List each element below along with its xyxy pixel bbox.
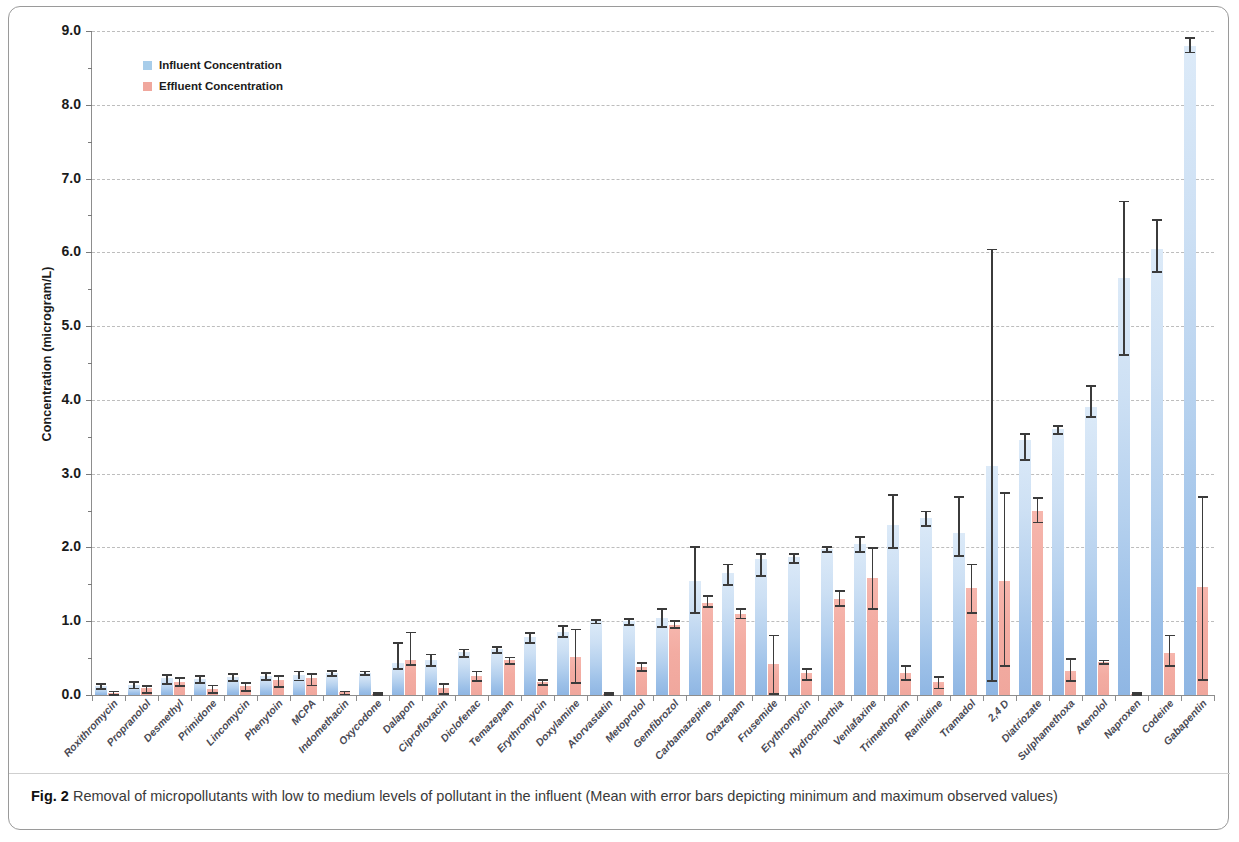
error-bar-cap-bottom bbox=[261, 679, 271, 681]
error-bar-cap-bottom bbox=[769, 693, 779, 695]
error-bar-cap-bottom bbox=[459, 656, 469, 658]
figure-caption-label: Fig. 2 bbox=[31, 788, 69, 804]
error-bar-line bbox=[971, 564, 973, 613]
error-bar-cap-bottom bbox=[637, 670, 647, 672]
error-bar-cap-top bbox=[129, 681, 139, 683]
bar-effluent bbox=[504, 660, 515, 695]
bar-group bbox=[422, 31, 455, 695]
error-bar-cap-top bbox=[1198, 496, 1208, 498]
error-bar-cap-bottom bbox=[571, 682, 581, 684]
error-bar-cap-top bbox=[591, 619, 601, 621]
error-bar-cap-top bbox=[525, 632, 535, 634]
error-bar-cap-top bbox=[274, 675, 284, 677]
error-bar-cap-bottom bbox=[109, 694, 119, 696]
error-bar-cap-top bbox=[538, 679, 548, 681]
error-bar-cap-bottom bbox=[208, 692, 218, 694]
bar-influent bbox=[722, 573, 733, 695]
error-bar-cap-bottom bbox=[703, 606, 713, 608]
bar-influent bbox=[623, 621, 634, 695]
bar-group bbox=[389, 31, 422, 695]
error-bar-cap-bottom bbox=[393, 668, 403, 670]
error-bar-cap-bottom bbox=[129, 688, 139, 690]
error-bar-cap-bottom bbox=[525, 642, 535, 644]
error-bar-cap-bottom bbox=[723, 584, 733, 586]
error-bar-cap-bottom bbox=[327, 675, 337, 677]
error-bar-cap-top bbox=[1185, 37, 1195, 39]
error-bar-cap-bottom bbox=[162, 683, 172, 685]
error-bar-cap-top bbox=[439, 683, 449, 685]
bar-group bbox=[752, 31, 785, 695]
error-bar-cap-bottom bbox=[1000, 665, 1010, 667]
y-axis-tick-label: 2.0 bbox=[39, 538, 81, 554]
error-bar-cap-bottom bbox=[558, 636, 568, 638]
bar-influent bbox=[1019, 440, 1030, 695]
error-bar-cap-bottom bbox=[604, 694, 614, 696]
error-bar-cap-top bbox=[505, 657, 515, 659]
y-axis-tick-label: 1.0 bbox=[39, 612, 81, 628]
error-bar-cap-top bbox=[769, 635, 779, 637]
error-bar-cap-top bbox=[736, 608, 746, 610]
error-bar-cap-top bbox=[109, 691, 119, 693]
error-bar-cap-bottom bbox=[954, 555, 964, 557]
error-bar-cap-bottom bbox=[1033, 522, 1043, 524]
error-bar-cap-bottom bbox=[274, 686, 284, 688]
caption-divider bbox=[9, 773, 1230, 774]
error-bar-cap-bottom bbox=[868, 608, 878, 610]
error-bar-line bbox=[410, 632, 412, 664]
error-bar-line bbox=[1024, 433, 1026, 459]
error-bar-cap-top bbox=[142, 685, 152, 687]
bar-group bbox=[521, 31, 554, 695]
error-bar-line bbox=[1189, 37, 1191, 52]
error-bar-cap-top bbox=[195, 675, 205, 677]
error-bar-cap-bottom bbox=[1099, 663, 1109, 665]
bar-influent bbox=[557, 632, 568, 695]
figure-frame: Concentration (microgram/L) 0.01.02.03.0… bbox=[8, 6, 1229, 830]
chart-plot-wrapper: Concentration (microgram/L) 0.01.02.03.0… bbox=[9, 7, 1230, 777]
error-bar-cap-top bbox=[228, 673, 238, 675]
error-bar-cap-bottom bbox=[492, 652, 502, 654]
error-bar-cap-top bbox=[393, 642, 403, 644]
bar-group bbox=[554, 31, 587, 695]
error-bar-cap-top bbox=[637, 662, 647, 664]
error-bar-cap-top bbox=[261, 672, 271, 674]
bar-influent bbox=[1052, 429, 1063, 695]
error-bar-cap-top bbox=[558, 625, 568, 627]
error-bar-line bbox=[760, 553, 762, 574]
y-axis-tick-labels: 0.01.02.03.04.05.06.07.08.09.0 bbox=[33, 7, 81, 777]
error-bar-cap-bottom bbox=[241, 690, 251, 692]
error-bar-line bbox=[892, 494, 894, 547]
error-bar-cap-bottom bbox=[657, 626, 667, 628]
error-bar-cap-bottom bbox=[406, 664, 416, 666]
error-bar-cap-top bbox=[1033, 497, 1043, 499]
error-bar-cap-bottom bbox=[670, 627, 680, 629]
bar-influent bbox=[1184, 46, 1195, 695]
x-axis-tick-label: 2,4 D bbox=[985, 697, 1011, 724]
error-bar-cap-top bbox=[901, 665, 911, 667]
error-bar-cap-top bbox=[855, 536, 865, 538]
error-bar-cap-bottom bbox=[1165, 665, 1175, 667]
error-bar-line bbox=[1169, 635, 1171, 666]
error-bar-cap-top bbox=[703, 595, 713, 597]
error-bar-cap-top bbox=[472, 671, 482, 673]
x-axis-tick-label: MCPA bbox=[289, 697, 318, 727]
bar-effluent bbox=[702, 603, 713, 695]
bar-group bbox=[983, 31, 1016, 695]
error-bar-line bbox=[575, 629, 577, 682]
bar-influent bbox=[854, 544, 865, 695]
bar-influent bbox=[788, 557, 799, 695]
plot-area bbox=[91, 31, 1214, 696]
error-bar-cap-top bbox=[208, 685, 218, 687]
error-bar-line bbox=[1004, 492, 1006, 665]
legend-label-influent: Influent Concentration bbox=[159, 59, 282, 71]
error-bar-cap-bottom bbox=[360, 674, 370, 676]
bar-group bbox=[1082, 31, 1115, 695]
error-bar-cap-top bbox=[802, 668, 812, 670]
y-axis-tick-label: 5.0 bbox=[39, 317, 81, 333]
bar-effluent bbox=[1098, 662, 1109, 695]
error-bar-cap-bottom bbox=[855, 551, 865, 553]
error-bar-line bbox=[727, 564, 729, 585]
bar-group bbox=[224, 31, 257, 695]
bar-group bbox=[158, 31, 191, 695]
error-bar-cap-bottom bbox=[1198, 679, 1208, 681]
y-axis-tick-label: 8.0 bbox=[39, 96, 81, 112]
